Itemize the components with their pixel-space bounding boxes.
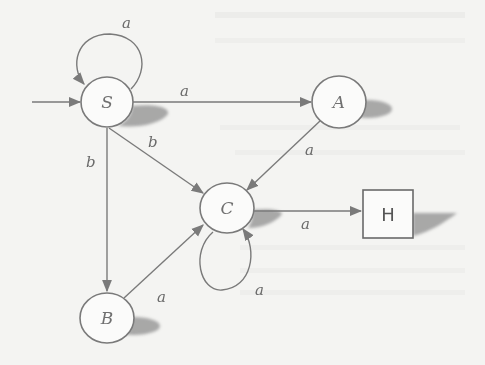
label-S-B: b xyxy=(86,153,96,171)
label-C-C: a xyxy=(255,281,264,299)
svg-text:A: A xyxy=(331,92,345,112)
svg-text:S: S xyxy=(101,92,113,112)
svg-text:H: H xyxy=(381,204,395,225)
label-C-H: a xyxy=(301,215,310,233)
label-A-C: a xyxy=(305,141,314,159)
background-bleed-texture xyxy=(0,0,485,365)
svg-text:C: C xyxy=(220,198,233,218)
node-S: S xyxy=(81,77,133,127)
node-A: A xyxy=(312,76,366,128)
node-C: C xyxy=(200,183,254,233)
node-H: H xyxy=(363,190,413,238)
automaton-diagram: a a b b a a a a S A B C H xyxy=(0,0,485,365)
node-B: B xyxy=(80,293,134,343)
label-S-A: a xyxy=(180,82,189,100)
label-S-S: a xyxy=(122,14,131,32)
svg-text:B: B xyxy=(100,308,114,328)
label-S-C: b xyxy=(148,133,158,151)
label-B-C: a xyxy=(157,288,166,306)
